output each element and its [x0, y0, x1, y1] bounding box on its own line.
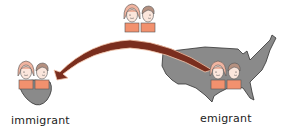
- immigrant-label: immigrant: [11, 114, 70, 127]
- emigrant-label: emigrant: [200, 112, 252, 125]
- couple-icon-transit: [124, 4, 155, 32]
